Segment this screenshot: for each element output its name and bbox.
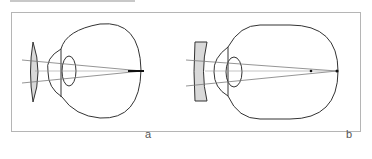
retina-point: [336, 70, 339, 73]
ray: [186, 60, 337, 71]
panel-label-a: a: [145, 128, 151, 140]
concave-lens-icon: [194, 42, 207, 101]
panel-label-b: b: [346, 128, 352, 140]
panel-a: [22, 24, 144, 118]
eye-diagram: [0, 0, 372, 159]
panel-b: [186, 25, 339, 119]
focal-point: [310, 70, 313, 73]
ray: [186, 71, 337, 86]
ray: [22, 60, 142, 71]
cornea: [48, 49, 62, 97]
eyeball-outline: [228, 25, 338, 119]
convex-lens-icon: [31, 42, 39, 102]
ray: [22, 71, 142, 83]
